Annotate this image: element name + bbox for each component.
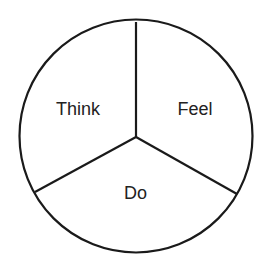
think-feel-do-diagram: Think Feel Do	[0, 0, 266, 268]
sector-label-think: Think	[56, 99, 101, 119]
sector-label-do: Do	[124, 183, 147, 203]
sector-label-feel: Feel	[177, 99, 212, 119]
